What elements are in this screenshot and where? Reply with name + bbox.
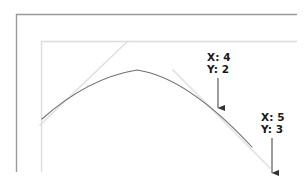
coordinate-label-1: X: 4 Y: 2: [207, 51, 231, 75]
coordinate-label-2-x: X: 5: [261, 111, 285, 123]
descending-tangent-line: [173, 70, 270, 168]
coordinate-label-1-y: Y: 2: [207, 63, 231, 75]
coordinate-label-2: X: 5 Y: 3: [261, 111, 285, 135]
ascending-tangent-line: [40, 41, 128, 125]
outer-frame: [16, 14, 297, 172]
coordinate-label-1-x: X: 4: [207, 51, 231, 63]
diagram-figure: [0, 0, 307, 189]
arc-curve: [42, 70, 252, 147]
diagram-canvas: X: 4 Y: 2 X: 5 Y: 3: [0, 0, 307, 189]
inner-frame: [41, 41, 297, 172]
coordinate-label-2-y: Y: 3: [261, 123, 285, 135]
